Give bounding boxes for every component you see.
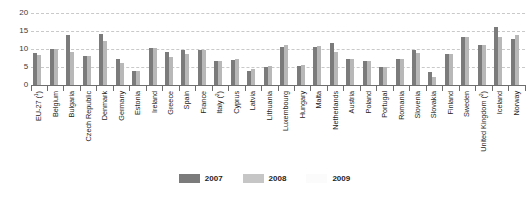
legend-item-2008[interactable]: 2008 [243, 174, 287, 183]
x-axis-label: Czech Republic [85, 91, 92, 141]
bar-group [509, 13, 525, 85]
x-axis-label-cell: Cyprus [229, 91, 245, 151]
bar-group [262, 13, 278, 85]
bar-group [80, 13, 96, 85]
bar-group [179, 13, 195, 85]
x-axis-label: Portugal [381, 91, 388, 118]
y-tick-label-15: 15 [2, 27, 28, 35]
legend-item-2009[interactable]: 2009 [306, 174, 350, 183]
x-axis-label: Netherlands [332, 91, 339, 130]
x-axis-labels: EU-27 (1)BelgiumBulgariaCzech RepublicDe… [31, 91, 525, 151]
x-axis-label-cell: Slovakia [426, 91, 442, 151]
x-axis-label-cell: Romania [393, 91, 409, 151]
bar-group [146, 13, 162, 85]
x-axis-label: Greece [167, 91, 174, 115]
bar-2008 [136, 71, 140, 85]
x-axis-label: Cyprus [233, 91, 240, 114]
legend-label-2007: 2007 [205, 175, 223, 183]
x-axis-label-cell: EU-27 (1) [31, 91, 47, 151]
bar-group [295, 13, 311, 85]
bar-2008 [70, 52, 74, 85]
bar-2008 [482, 45, 486, 85]
bar-group [476, 13, 492, 85]
x-axis-label: Austria [348, 91, 355, 113]
x-axis-label-cell: Malta [311, 91, 327, 151]
bar-2008 [169, 57, 173, 85]
x-axis-label: Belgium [52, 91, 59, 117]
x-axis-label-cell: Norway [509, 91, 525, 151]
x-axis-label: Italy (2) [217, 91, 224, 114]
bar-2008 [284, 45, 288, 85]
bar-group [245, 13, 261, 85]
x-axis-label-cell: Luxembourg [278, 91, 294, 151]
x-axis-label: Malta [316, 91, 323, 109]
legend-label-2009: 2009 [332, 175, 350, 183]
bar-2008 [432, 77, 436, 85]
y-tick-label-5: 5 [2, 63, 28, 71]
bar-2008 [218, 61, 222, 85]
x-axis-label-cell: Belgium [47, 91, 63, 151]
bar-group [163, 13, 179, 85]
bar-group [443, 13, 459, 85]
y-tick-label-10: 10 [2, 45, 28, 53]
legend-item-2007[interactable]: 2007 [179, 174, 223, 183]
x-axis-label-cell: Austria [344, 91, 360, 151]
x-axis-label: Spain [184, 91, 191, 109]
bar-2008 [400, 59, 404, 85]
bar-group [311, 13, 327, 85]
bar-2008 [334, 52, 338, 85]
bar-2008 [383, 67, 387, 85]
bar-group [459, 13, 475, 85]
bar-group [327, 13, 343, 85]
bar-2008 [268, 66, 272, 85]
bar-2008 [54, 49, 58, 85]
bar-2008 [87, 56, 91, 85]
legend-swatch-2007 [179, 174, 200, 183]
x-axis-label-cell: Italy (2) [212, 91, 228, 151]
bar-group [196, 13, 212, 85]
y-tick-label-20: 20 [2, 9, 28, 17]
x-axis-label-cell: Czech Republic [80, 91, 96, 151]
x-axis-label-cell: Iceland [492, 91, 508, 151]
x-axis-label-cell: Denmark [97, 91, 113, 151]
x-axis-label: Luxembourg [283, 91, 290, 131]
bar-2008 [185, 54, 189, 85]
bar-2008 [37, 55, 41, 85]
bar-chart: 05101520 EU-27 (1)BelgiumBulgariaCzech R… [0, 0, 529, 197]
x-axis-label-cell: Sweden [459, 91, 475, 151]
x-axis-label-cell: Greece [163, 91, 179, 151]
x-axis-label-cell: Lithuania [262, 91, 278, 151]
bar-2008 [367, 61, 371, 85]
bar-2008 [202, 50, 206, 85]
bar-group [113, 13, 129, 85]
x-axis-label: Sweden [464, 91, 471, 117]
x-axis-label-cell: United Kingdom (2) [476, 91, 492, 151]
x-axis-label: Slovakia [431, 91, 438, 118]
x-axis-label-cell: Slovenia [410, 91, 426, 151]
bar-group [360, 13, 376, 85]
bar-group [344, 13, 360, 85]
x-axis-label: Slovenia [414, 91, 421, 119]
bar-2008 [317, 46, 321, 85]
x-axis-label: United Kingdom (2) [480, 91, 487, 152]
x-axis-label-cell: France [196, 91, 212, 151]
x-axis-label: Poland [365, 91, 372, 113]
bar-group [492, 13, 508, 85]
x-axis-label: Hungary [299, 91, 306, 118]
x-axis-label: Denmark [101, 91, 108, 120]
x-axis-label-cell: Finland [443, 91, 459, 151]
bars-layer [31, 13, 525, 85]
bar-group [278, 13, 294, 85]
x-axis-label: Finland [447, 91, 454, 115]
bar-2008 [120, 63, 124, 85]
x-axis-label-cell: Netherlands [327, 91, 343, 151]
x-axis-label: Norway [513, 91, 520, 115]
bar-2008 [103, 41, 107, 85]
x-axis-label-cell: Germany [113, 91, 129, 151]
bar-2008 [465, 37, 469, 85]
y-axis-labels: 05101520 [0, 13, 28, 85]
bar-2008 [301, 65, 305, 85]
x-axis-label: Ireland [151, 91, 158, 113]
bar-2008 [416, 53, 420, 85]
x-axis-label: Bulgaria [69, 91, 76, 117]
